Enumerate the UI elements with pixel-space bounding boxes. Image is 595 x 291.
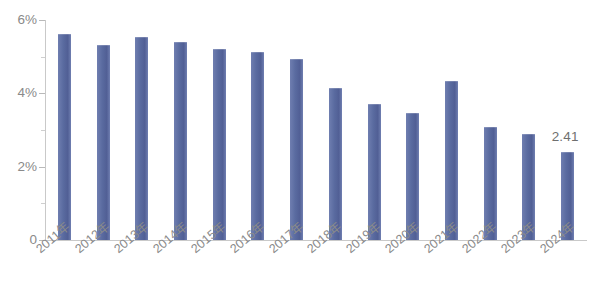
data-label: 2.41 <box>552 130 579 144</box>
y-axis-tick-label: 4% <box>0 86 37 100</box>
bar <box>97 45 110 240</box>
bar <box>213 49 226 240</box>
bar <box>251 52 264 240</box>
bar <box>135 37 148 241</box>
bar <box>290 59 303 240</box>
y-axis-tick-label: 2% <box>0 160 37 174</box>
bar-chart: 02%4%6% 2.41 2011年2012年2013年2014年2015年20… <box>0 0 595 291</box>
bar <box>58 34 71 240</box>
bar <box>445 81 458 241</box>
bar-series <box>45 20 587 240</box>
bar <box>174 42 187 240</box>
y-axis-tick-label: 6% <box>0 13 37 27</box>
y-axis-tick-label: 0 <box>0 233 37 247</box>
x-axis-tick-labels: 2011年2012年2013年2014年2015年2016年2017年2018年… <box>45 242 587 291</box>
bar <box>329 88 342 240</box>
